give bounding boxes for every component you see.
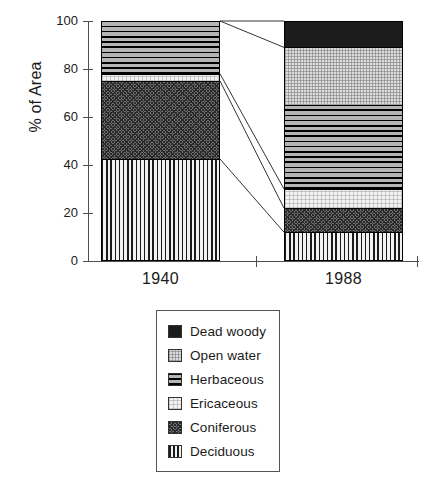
legend-swatch-icon — [168, 445, 182, 458]
legend-swatch-icon — [168, 325, 182, 338]
bar-1940 — [101, 21, 220, 261]
y-axis-tick-label: 40 — [48, 157, 78, 172]
legend-swatch-icon — [168, 397, 182, 410]
bar-segment-herbaceous — [101, 21, 220, 74]
legend-item-label: Dead woody — [190, 324, 266, 339]
bar-segment-coniferous — [284, 208, 403, 232]
legend-item-open-water[interactable]: Open water — [157, 343, 279, 367]
bar-segment-deciduous — [284, 232, 403, 261]
bar-segment-herbaceous — [284, 105, 403, 189]
legend-item-ericaceous[interactable]: Ericaceous — [157, 391, 279, 415]
x-axis-label-1940: 1940 — [121, 270, 201, 288]
legend-swatch-icon — [168, 349, 182, 362]
y-axis-tick-label: 60 — [48, 109, 78, 124]
stacked-bar-chart: % of Area 100806040200 19401988 Dead woo… — [0, 0, 437, 488]
legend-swatch-icon — [168, 373, 182, 386]
bar-segment-ericaceous — [101, 74, 220, 81]
y-axis-title: % of Area — [27, 17, 45, 177]
legend-item-label: Deciduous — [190, 444, 255, 459]
legend-item-deciduous[interactable]: Deciduous — [157, 439, 279, 463]
legend-item-label: Herbaceous — [190, 372, 264, 387]
legend-item-dead-woody[interactable]: Dead woody — [157, 319, 279, 343]
y-axis-tick — [83, 261, 93, 262]
plot-area — [88, 21, 418, 261]
bar-1988 — [284, 21, 403, 261]
legend-item-coniferous[interactable]: Coniferous — [157, 415, 279, 439]
x-axis-label-1988: 1988 — [304, 270, 384, 288]
legend-item-label: Ericaceous — [190, 396, 258, 411]
legend-item-label: Open water — [190, 348, 261, 363]
bar-segment-open-water — [284, 47, 403, 105]
bar-segment-coniferous — [101, 81, 220, 159]
y-axis-tick-label: 80 — [48, 61, 78, 76]
legend-swatch-icon — [168, 421, 182, 434]
legend: Dead woodyOpen waterHerbaceousEricaceous… — [156, 310, 280, 472]
y-axis-tick-label: 0 — [48, 253, 78, 268]
bar-segment-deciduous — [101, 159, 220, 261]
bar-segment-ericaceous — [284, 189, 403, 208]
bar-segment-dead-woody — [284, 21, 403, 47]
y-axis-tick-label: 100 — [48, 13, 78, 28]
x-axis-line — [88, 261, 419, 262]
legend-item-herbaceous[interactable]: Herbaceous — [157, 367, 279, 391]
legend-item-label: Coniferous — [190, 420, 256, 435]
y-axis-tick-label: 20 — [48, 205, 78, 220]
